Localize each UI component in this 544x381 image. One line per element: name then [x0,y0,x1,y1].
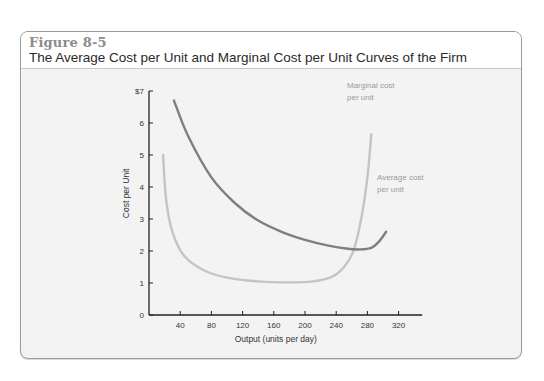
x-tick-label: 320 [392,321,406,330]
figure-frame: Figure 8-5 The Average Cost per Unit and… [20,31,522,359]
marginal-cost-label: Marginal cost [347,81,395,90]
x-axis-title: Output (units per day) [235,334,317,344]
x-tick-label: 160 [267,321,281,330]
average-cost-label: per unit [377,185,404,194]
average-cost-curve [174,101,386,250]
y-tick-label: 1 [140,279,145,288]
x-tick-label: 200 [298,321,312,330]
y-tick-label: 0 [140,311,145,320]
marginal-cost-label: per unit [347,93,374,102]
x-tick-label: 120 [236,321,250,330]
cost-curves-chart: 0123456$74080120160200240280320Output (u… [21,32,521,358]
x-tick-label: 280 [361,321,375,330]
average-cost-label: Average cost [377,173,424,182]
y-tick-label: 6 [140,119,145,128]
y-tick-label: 4 [140,183,145,192]
y-tick-label: 2 [140,247,145,256]
x-tick-label: 80 [207,321,216,330]
y-tick-label: 3 [140,215,145,224]
x-tick-label: 240 [330,321,344,330]
y-tick-label: 5 [140,151,145,160]
x-tick-label: 40 [176,321,185,330]
marginal-cost-curve [163,134,371,282]
y-axis-title: Cost per Unit [121,168,131,218]
y-tick-label: $7 [135,87,144,96]
